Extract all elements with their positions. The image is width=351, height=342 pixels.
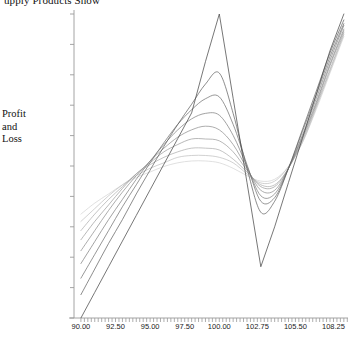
chart-container: upply Products Show Profit and Loss 1062… — [0, 0, 351, 342]
data-series-line — [81, 29, 344, 251]
axes — [69, 10, 348, 322]
data-series-group — [81, 14, 344, 318]
data-series-line — [81, 24, 344, 279]
data-series-line — [81, 20, 344, 295]
plot-area — [0, 0, 351, 342]
data-series-line — [81, 14, 344, 318]
data-series-line — [81, 25, 344, 263]
data-series-line — [81, 35, 344, 222]
